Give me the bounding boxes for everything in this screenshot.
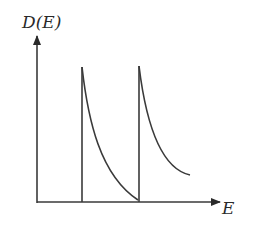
x-axis-label: E [221, 198, 235, 218]
y-axis-label: D(E) [21, 12, 61, 32]
dos-diagram: D(E) E [0, 0, 257, 228]
spike-2-decay [139, 66, 190, 175]
spike-1-decay [82, 67, 138, 200]
